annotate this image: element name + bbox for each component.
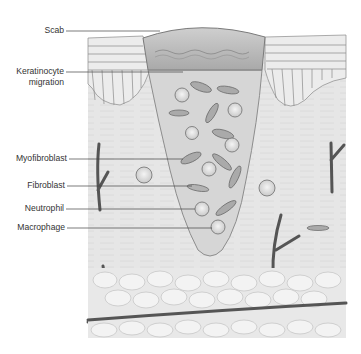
label-scab: Scab [44, 25, 64, 36]
label-macrophage: Macrophage [17, 222, 65, 233]
scab [143, 28, 265, 70]
label-keratinocyte-migration: Keratinocyte migration [16, 66, 64, 88]
label-keratinocyte-line1: Keratinocyte [16, 66, 64, 77]
label-keratinocyte-line2: migration [16, 77, 64, 88]
label-myofibroblast: Myofibroblast [16, 153, 67, 164]
label-neutrophil: Neutrophil [25, 203, 64, 214]
label-fibroblast: Fibroblast [27, 180, 65, 191]
wound-healing-illustration [0, 0, 361, 354]
fat-layer [88, 268, 346, 338]
